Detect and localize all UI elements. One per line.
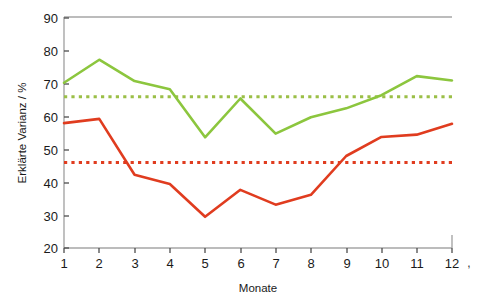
x-tick-label: 9 (343, 256, 350, 271)
x-tick-label: 8 (307, 256, 314, 271)
chart-container: 90 80 70 60 50 40 30 20 1 2 3 4 5 6 7 8 … (0, 0, 485, 306)
x-tick-label: 6 (237, 256, 244, 271)
red-series-line (64, 119, 452, 217)
x-tick-label: 12 (445, 256, 459, 271)
x-axis-title: Monate (239, 282, 277, 294)
y-tick-label: 70 (44, 77, 58, 92)
x-tick-labels: 1 2 3 4 5 6 7 8 9 10 11 12 (60, 256, 459, 271)
y-tick-label: 20 (44, 241, 58, 256)
x-tick-label: 10 (375, 256, 389, 271)
x-tick-label: 5 (201, 256, 208, 271)
x-tick-marks (64, 248, 452, 253)
plot-frame (64, 17, 452, 248)
y-tick-label: 30 (44, 209, 58, 224)
y-tick-label: 60 (44, 110, 58, 125)
corner-mark: , (467, 256, 470, 270)
y-axis-title: Erklärte Varianz / % (16, 83, 28, 184)
x-tick-label: 2 (95, 256, 102, 271)
line-chart: 90 80 70 60 50 40 30 20 1 2 3 4 5 6 7 8 … (0, 0, 485, 306)
x-tick-label: 1 (60, 256, 67, 271)
reference-lines (64, 97, 452, 163)
y-tick-label: 50 (44, 143, 58, 158)
y-tick-marks (64, 18, 69, 248)
y-tick-labels: 90 80 70 60 50 40 30 20 (44, 11, 58, 256)
y-tick-label: 90 (44, 11, 58, 26)
data-series (64, 60, 452, 217)
y-tick-label: 40 (44, 176, 58, 191)
x-tick-label: 4 (166, 256, 173, 271)
x-tick-label: 11 (410, 256, 424, 271)
green-series-line (64, 60, 452, 138)
x-tick-label: 7 (272, 256, 279, 271)
x-tick-label: 3 (131, 256, 138, 271)
y-tick-label: 80 (44, 44, 58, 59)
